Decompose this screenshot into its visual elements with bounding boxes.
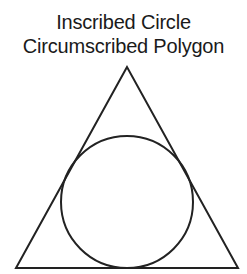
diagram xyxy=(0,0,247,274)
inscribed-circle xyxy=(61,136,193,268)
circumscribed-triangle xyxy=(16,67,238,268)
